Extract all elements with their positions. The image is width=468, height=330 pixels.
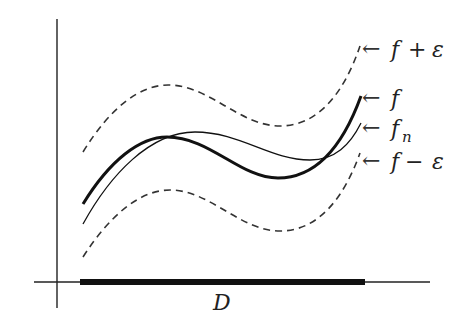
arrow-left-icon: ← [362, 36, 380, 61]
diagram-canvas: ← f + ε ← f ← f n ← f − ε D [0, 0, 468, 330]
label-f: ← f [362, 85, 403, 111]
label-fn: ← f n [362, 115, 412, 146]
arrow-left-icon: ← [362, 148, 380, 173]
arrow-left-icon: ← [362, 85, 380, 110]
svg-text:n: n [402, 128, 412, 146]
svg-text:+: + [408, 37, 426, 62]
svg-text:f: f [389, 86, 403, 111]
svg-text:ε: ε [432, 37, 444, 62]
svg-text:f: f [389, 37, 403, 62]
svg-text:f: f [389, 116, 403, 141]
label-upper-band: ← f + ε [362, 36, 444, 62]
label-lower-band: ← f − ε [362, 148, 444, 174]
svg-text:f: f [389, 149, 403, 174]
arrow-left-icon: ← [362, 115, 380, 140]
f-curve [83, 96, 361, 204]
svg-text:ε: ε [432, 149, 444, 174]
svg-text:−: − [405, 149, 423, 174]
upper-band-curve [83, 46, 360, 152]
domain-label: D [212, 290, 231, 315]
lower-band-curve [83, 153, 360, 257]
